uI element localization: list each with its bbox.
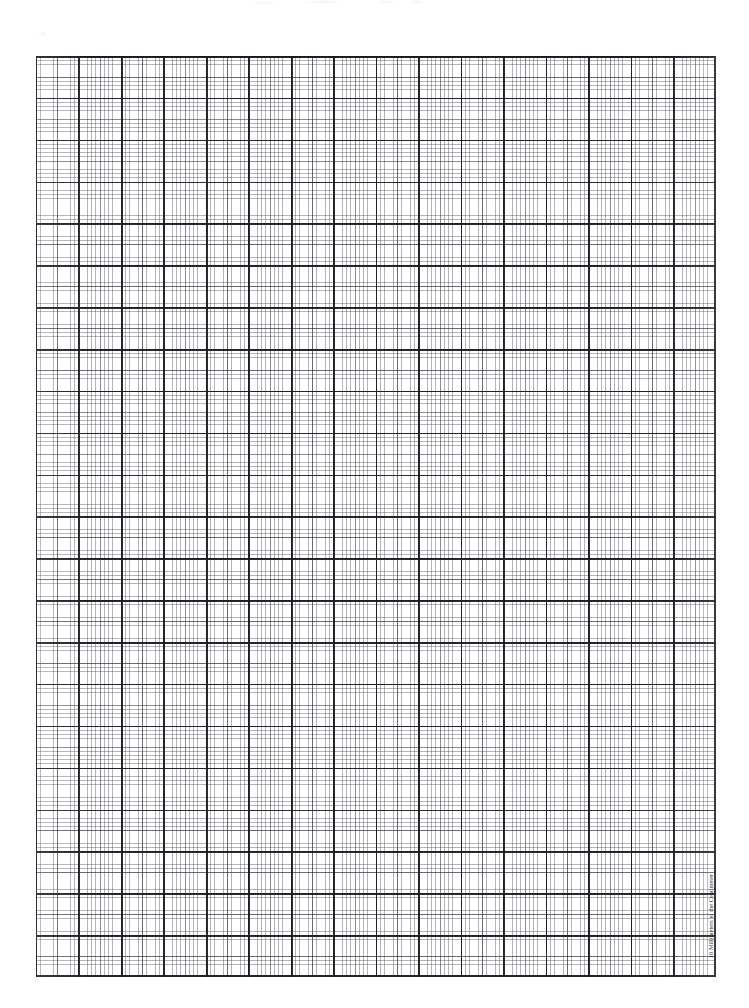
grid-scale-caption: 10 Millimeters to the Centimeter <box>703 874 719 958</box>
scan-smudge-top <box>245 0 445 6</box>
graph-grid <box>36 56 716 977</box>
centimeter-gridlines <box>36 56 716 977</box>
grid-scale-caption-text: 10 Millimeters to the Centimeter <box>708 874 714 958</box>
graph-paper-page: 10 Millimeters to the Centimeter <box>0 0 749 1008</box>
scan-smudge-left <box>36 30 50 38</box>
